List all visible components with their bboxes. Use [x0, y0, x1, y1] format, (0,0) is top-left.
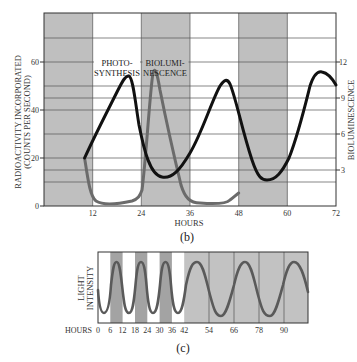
svg-text:18: 18 — [131, 326, 139, 335]
y-right-tick-12: 12 — [339, 58, 347, 67]
y-ticks-left: 60 40 20 0 — [31, 58, 44, 211]
y-tick-60: 60 — [31, 58, 39, 67]
svg-text:42: 42 — [180, 326, 188, 335]
x-tick-24: 24 — [137, 209, 145, 218]
photosynthesis-curve — [85, 72, 336, 180]
svg-text:30: 30 — [156, 326, 164, 335]
bioluminescence-label-line2: NESCENCE — [143, 68, 187, 78]
caption-b: (b) — [180, 230, 194, 244]
dark-period-0-12 — [44, 13, 93, 206]
y-tick-0: 0 — [35, 202, 39, 211]
x-ticks-b: 12 24 36 48 60 72 — [89, 209, 340, 218]
svg-text:24: 24 — [143, 326, 151, 335]
x-axis-label-b: HOURS — [175, 218, 204, 228]
y-tick-20: 20 — [31, 154, 39, 163]
photosynthesis-label-line1: PHOTO- — [101, 58, 132, 68]
x-tick-72: 72 — [332, 209, 340, 218]
caption-c: (c) — [176, 341, 189, 355]
svg-text:90: 90 — [280, 326, 288, 335]
y-axis-label-c-line2: INTENSITY — [85, 266, 95, 310]
svg-text:12: 12 — [119, 326, 127, 335]
svg-text:54: 54 — [205, 326, 213, 335]
x-tick-36: 36 — [186, 209, 194, 218]
x-tick-12: 12 — [89, 209, 97, 218]
figure: PHOTO- SYNTHESIS BIOLUMI- NESCENCE 60 40… — [0, 0, 357, 362]
y-axis-label-right: BIOLUMINESCENCE — [346, 80, 356, 160]
bioluminescence-label-line1: BIOLUMI- — [145, 58, 184, 68]
x-tick-48: 48 — [235, 209, 243, 218]
photosynthesis-label-line2: SYNTHESIS — [94, 68, 140, 78]
x-ticks-c: 0 6 12 18 24 30 36 42 54 66 78 90 — [96, 326, 288, 335]
svg-text:36: 36 — [168, 326, 176, 335]
y-right-tick-6: 6 — [341, 130, 345, 139]
svg-text:66: 66 — [230, 326, 238, 335]
y-right-tick-3: 3 — [341, 166, 345, 175]
chart-c: LIGHT INTENSITY HOURS 0 6 12 18 24 30 36… — [65, 252, 308, 355]
y-axis-label-left-sub: (COUNTS PER SECOND) — [22, 75, 32, 169]
svg-text:0: 0 — [96, 326, 100, 335]
y-right-tick-9: 9 — [341, 94, 345, 103]
svg-text:78: 78 — [255, 326, 263, 335]
chart-b: PHOTO- SYNTHESIS BIOLUMI- NESCENCE 60 40… — [13, 13, 356, 244]
dark-period-48-60 — [239, 13, 288, 206]
x-tick-60: 60 — [283, 209, 291, 218]
svg-text:6: 6 — [108, 326, 112, 335]
x-axis-label-c: HOURS — [65, 326, 92, 335]
y-tick-40: 40 — [31, 106, 39, 115]
